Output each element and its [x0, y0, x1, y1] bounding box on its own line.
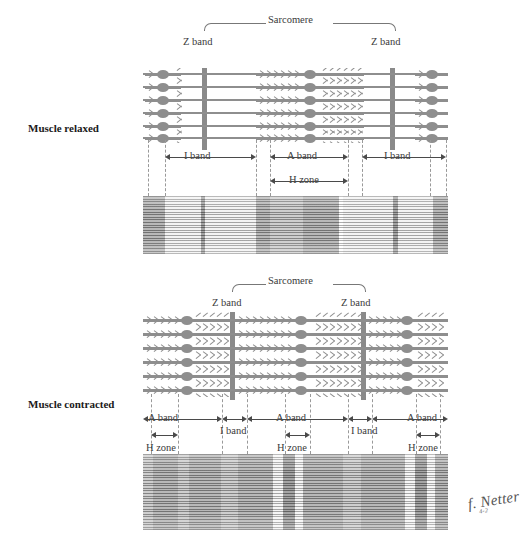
cross-bridge — [418, 393, 423, 397]
guide-dash — [430, 140, 431, 196]
cross-bridge — [351, 312, 356, 317]
myofilament-diagram-contracted — [143, 312, 448, 397]
cross-bridge — [358, 312, 363, 317]
cross-bridge — [344, 340, 349, 345]
cross-bridge — [330, 354, 335, 359]
cross-bridge — [224, 340, 229, 345]
actin-filament — [203, 125, 258, 127]
cross-bridge — [217, 312, 222, 317]
guide-dash — [270, 140, 271, 196]
micrograph-contracted — [143, 454, 448, 530]
myosin-m-node — [304, 109, 316, 118]
cross-bridge — [425, 368, 430, 373]
side-label-muscle-relaxed: Muscle relaxed — [28, 122, 99, 134]
cross-bridge — [323, 340, 328, 345]
cross-bridge — [330, 312, 335, 317]
myosin-m-node — [426, 83, 438, 92]
myosin-m-node — [157, 96, 169, 105]
cross-bridge — [351, 393, 356, 397]
cross-bridge — [425, 340, 430, 345]
cross-bridge — [425, 354, 430, 359]
cross-bridge — [337, 382, 342, 387]
cross-bridge — [432, 368, 437, 373]
cross-bridge — [316, 382, 321, 387]
guide-dash — [247, 394, 248, 454]
cross-bridge — [344, 368, 349, 373]
guide-dash — [362, 140, 363, 196]
panel-muscle-relaxed: Muscle relaxed Sarcomere Z band Z band I… — [0, 0, 531, 270]
cross-bridge — [210, 382, 215, 387]
cross-bridge — [432, 326, 437, 331]
measure-label-aband-relaxed: A band — [287, 150, 317, 161]
cross-bridge — [330, 382, 335, 387]
cross-bridge — [330, 68, 335, 71]
measure-aband-mid-head-left — [247, 416, 252, 422]
cross-bridge — [210, 326, 215, 331]
cross-bridge — [217, 368, 222, 373]
measure-hzone-right-head-left — [416, 432, 421, 438]
measure-hzone-left-head-right — [173, 432, 178, 438]
micrograph-overlay — [143, 454, 448, 530]
cross-bridge — [203, 326, 208, 331]
sarcomere-label-relaxed: Sarcomere — [268, 14, 313, 25]
cross-bridge — [323, 312, 328, 317]
myosin-m-node — [295, 330, 307, 339]
myosin-m-node — [181, 344, 193, 353]
cross-bridge — [351, 141, 356, 143]
micrograph-relaxed — [143, 196, 448, 254]
myosin-m-node — [304, 122, 316, 131]
cross-bridge — [196, 354, 201, 359]
cross-bridge — [217, 382, 222, 387]
cross-bridge — [351, 382, 356, 387]
cross-bridge — [439, 354, 444, 359]
cross-bridge — [217, 340, 222, 345]
actin-filament — [203, 73, 258, 75]
myosin-m-node — [426, 134, 438, 143]
myosin-m-node — [295, 386, 307, 395]
cross-bridge — [316, 354, 321, 359]
zband-label-right-contracted: Z band — [341, 297, 370, 308]
cross-bridge — [358, 382, 363, 387]
actin-filament — [362, 137, 422, 139]
measure-hzone-mid-head-right — [305, 432, 310, 438]
cross-bridge — [323, 326, 328, 331]
cross-bridge — [196, 326, 201, 331]
measure-label-hzone-relaxed: H zone — [289, 174, 319, 185]
sarcomere-label-contracted: Sarcomere — [268, 275, 313, 286]
cross-bridge — [344, 312, 349, 317]
cross-bridge — [351, 340, 356, 345]
cross-bridge — [418, 354, 423, 359]
cross-bridge — [344, 382, 349, 387]
cross-bridge — [351, 68, 356, 71]
guide-dash — [348, 394, 349, 454]
cross-bridge — [351, 368, 356, 373]
cross-bridge — [425, 312, 430, 317]
cross-bridge — [196, 368, 201, 373]
cross-bridge — [224, 354, 229, 359]
measure-iband-right-line — [353, 419, 367, 420]
cross-bridge — [203, 368, 208, 373]
cross-bridge — [344, 326, 349, 331]
measure-label-aband-right-contracted: A band — [407, 412, 437, 423]
guide-dash — [222, 394, 223, 454]
measure-iband-left-head-left — [165, 154, 170, 160]
cross-bridge — [344, 354, 349, 359]
measure-hzone-left-line — [156, 435, 173, 436]
measure-aband-left-line — [148, 419, 217, 420]
myosin-m-node — [304, 134, 316, 143]
measure-label-iband-left-relaxed: I band — [184, 150, 211, 161]
cross-bridge — [210, 393, 215, 397]
cross-bridge — [358, 368, 363, 373]
measure-aband-head-right — [343, 154, 348, 160]
myosin-m-node — [181, 372, 193, 381]
cross-bridge — [323, 354, 328, 359]
cross-bridge — [330, 393, 335, 397]
actin-filament — [362, 112, 422, 114]
cross-bridge — [330, 340, 335, 345]
cross-bridge — [210, 368, 215, 373]
myosin-m-node — [181, 358, 193, 367]
measure-hzone-head-right — [343, 178, 348, 184]
myofilament-diagram-relaxed — [143, 68, 448, 143]
cross-bridge — [337, 354, 342, 359]
measure-iband-left-head-left — [222, 416, 227, 422]
